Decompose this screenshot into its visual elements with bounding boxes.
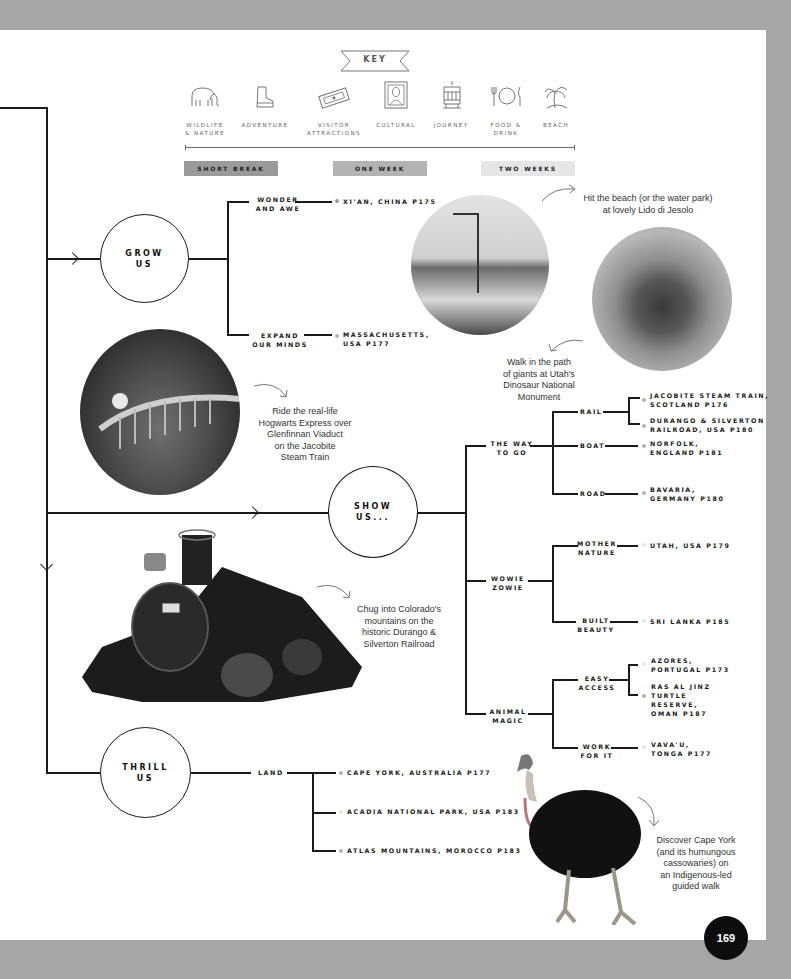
branch-boat: BOAT (580, 441, 605, 450)
boat-line (552, 445, 578, 447)
branch-mother-nature: MOTHER NATURE (576, 539, 618, 557)
note-durango: Chug into Colorado's mountains on the hi… (350, 604, 448, 650)
main-trunk-line (46, 107, 48, 773)
dest-bavaria: BAVARIA, GERMANY P180 (650, 485, 724, 503)
rail-line (552, 411, 578, 413)
branch-wonder-and-awe: WONDER AND AWE (250, 195, 306, 213)
node-grow-us: GROW US (100, 214, 189, 303)
node-thrill-us-label: THRILL US (122, 762, 168, 784)
curved-arrow-icon (636, 795, 662, 831)
grow-branch-top (227, 201, 249, 203)
curved-arrow-icon (540, 183, 580, 203)
key-label-beach: BEACH (533, 121, 579, 129)
elephant-icon (188, 84, 222, 110)
ticket-icon (316, 86, 352, 110)
note-lido: Hit the beach (or the water park) at lov… (578, 193, 718, 216)
group-wowie-zowie: WOWIE ZOWIE (488, 574, 528, 592)
duration-one-week-label: ONE WEEK (355, 165, 405, 172)
duration-dot (642, 424, 646, 428)
thrill-connector (46, 772, 102, 774)
wonder-dest-line (295, 201, 332, 203)
work-line (552, 747, 578, 749)
duration-dot (642, 491, 646, 495)
duration-dot (642, 543, 646, 547)
dest-xian: XI'AN, CHINA P175 (343, 197, 436, 206)
group-animal-magic: ANIMAL MAGIC (486, 707, 530, 725)
duration-dot (642, 694, 646, 698)
palm-tree-icon (543, 82, 569, 110)
duration-dot (642, 398, 646, 402)
dest-sri-lanka: SRI LANKA P185 (650, 617, 730, 626)
node-thrill-us: THRILL US (100, 727, 191, 818)
key-title: KEY (340, 55, 410, 64)
easy-sub-trunk (628, 664, 630, 695)
branch-built-beauty: BUILT BEAUTY (575, 616, 617, 634)
mother-out-line (617, 545, 638, 547)
branch-road: ROAD (580, 489, 607, 498)
work-out-line (611, 747, 638, 749)
easy-line (552, 679, 578, 681)
expand-dest-line (304, 334, 332, 336)
glenfinnan-viaduct-photo (80, 329, 240, 495)
dest-acadia: ACADIA NATIONAL PARK, USA P183 (347, 807, 520, 816)
easy-sub-top (628, 664, 638, 666)
duration-scale-tick-left (185, 145, 186, 150)
key-label-cultural: CULTURAL (370, 121, 422, 129)
branch-rail: RAIL (580, 407, 602, 416)
key-label-visitor-attractions: VISITOR ATTRACTIONS (302, 121, 366, 137)
way-out-line (530, 445, 553, 447)
grow-branch-vertical (227, 201, 229, 335)
built-out-line (610, 621, 638, 623)
dest-ras-al-jinz: RAS AL JINZ TURTLE RESERVE, OMAN P187 (651, 682, 711, 718)
duration-scale-line (185, 147, 575, 148)
cassowary-photo (503, 750, 648, 925)
tram-icon (440, 80, 464, 110)
dest-durango: DURANGO & SILVERTON RAILROAD, USA P180 (650, 416, 765, 434)
duration-dot (642, 662, 646, 666)
built-line (552, 621, 576, 623)
dest-jacobite: JACOBITE STEAM TRAIN, SCOTLAND P176 (650, 391, 769, 409)
note-dinosaur: Walk in the path of giants at Utah's Din… (494, 357, 584, 403)
duration-two-weeks-label: TWO WEEKS (499, 165, 557, 172)
duration-dot (335, 199, 339, 203)
dest-utah: UTAH, USA P179 (650, 541, 731, 550)
duration-short-break: SHORT BREAK (184, 161, 278, 176)
dest-norfolk: NORFOLK, ENGLAND P181 (650, 439, 723, 457)
key-label-food-drink: FOOD & DRINK (484, 121, 528, 137)
duration-dot (642, 444, 646, 448)
duration-dot (642, 745, 646, 749)
animal-out-line (528, 713, 553, 715)
way-connector (465, 445, 486, 447)
node-grow-us-label: GROW US (125, 248, 163, 270)
rail-sub-bottom (628, 423, 640, 425)
duration-two-weeks: TWO WEEKS (481, 161, 575, 176)
boot-icon (252, 84, 276, 110)
land-bottom (312, 850, 336, 852)
road-out-line (605, 493, 638, 495)
show-connector (46, 512, 330, 514)
branch-easy-access: EASY ACCESS (577, 674, 617, 692)
page-number-badge: 169 (704, 916, 748, 960)
curved-arrow-icon (545, 335, 585, 355)
duration-scale-tick-right (574, 145, 575, 150)
duration-dot (339, 849, 343, 853)
show-out-line (418, 512, 466, 514)
wowie-out-line (528, 580, 553, 582)
rail-sub-top (628, 397, 640, 399)
animal-connector (465, 713, 486, 715)
duration-dot (339, 771, 343, 775)
dest-vavau: VAVA'U, TONGA P177 (651, 740, 712, 758)
boat-out-line (605, 445, 638, 447)
key-label-journey: JOURNEY (428, 121, 474, 129)
lido-water-park-photo (411, 195, 549, 335)
branch-expand-our-minds: EXPAND OUR MINDS (250, 331, 310, 349)
rail-out-line (603, 411, 629, 413)
dest-cape-york: CAPE YORK, AUSTRALIA P177 (347, 768, 491, 777)
branch-land: LAND (258, 768, 284, 777)
page-number: 169 (717, 932, 735, 944)
wowie-trunk (552, 545, 554, 622)
curved-arrow-icon (252, 380, 292, 402)
note-jacobite: Ride the real-life Hogwarts Express over… (250, 406, 360, 464)
mother-line (552, 545, 578, 547)
duration-dot (642, 619, 646, 623)
